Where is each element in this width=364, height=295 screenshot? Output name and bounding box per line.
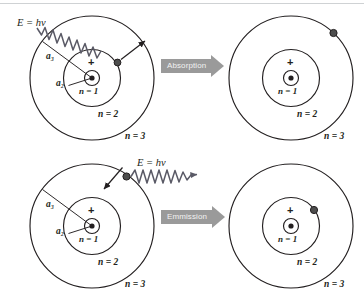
- process-arrow-head-icon: [211, 55, 224, 77]
- nucleus-charge-label: +: [88, 205, 94, 216]
- figure-canvas: E = hv a₃ a₂ + n = 1 n = 2 n = 3 + n = 1…: [0, 0, 364, 295]
- radius-a3-label: a₃: [46, 52, 54, 62]
- nucleus-charge-label: +: [287, 57, 293, 68]
- shell-n3-label: n = 3: [324, 280, 344, 290]
- process-arrow-absorption: Absorption: [161, 55, 224, 77]
- atom-emission-after: [229, 164, 353, 288]
- nucleus-dot: [288, 223, 293, 228]
- photon-energy-label: E = hv: [17, 18, 46, 29]
- shell-n3-label: n = 3: [125, 132, 145, 142]
- nucleus-dot: [288, 75, 293, 80]
- process-arrow-body: Absorption: [161, 59, 211, 73]
- radius-a2-label: a₂: [56, 227, 64, 237]
- bohr-diagram-svg: [0, 0, 364, 295]
- radius-a2-label: a₂: [56, 79, 64, 89]
- process-arrow-head-icon: [212, 206, 225, 228]
- atom-absorption-after: [229, 16, 353, 140]
- shell-n1-label: n = 1: [278, 235, 297, 244]
- shell-n1-label: n = 1: [278, 87, 297, 96]
- process-arrow-label: Emmission: [167, 213, 207, 221]
- radius-a3-label: a₃: [46, 200, 54, 210]
- shell-n3-label: n = 3: [324, 132, 344, 142]
- atom-absorption-before: [30, 16, 154, 140]
- process-arrow-label: Absorption: [167, 62, 206, 70]
- shell-n2-label: n = 2: [98, 110, 118, 120]
- electron-particle: [310, 206, 317, 213]
- shell-n1-label: n = 1: [79, 235, 98, 244]
- electron-particle: [330, 29, 337, 36]
- electron-jump-arrow: [121, 41, 145, 60]
- shell-n3-label: n = 3: [125, 280, 145, 290]
- nucleus-charge-label: +: [88, 57, 94, 68]
- photon-energy-label: E = hv: [137, 158, 166, 169]
- process-arrow-body: Emmission: [161, 210, 212, 224]
- electron-drop-arrow: [104, 168, 123, 190]
- shell-n2-label: n = 2: [297, 110, 317, 120]
- shell-n2-label: n = 2: [98, 258, 118, 268]
- shell-n1-label: n = 1: [79, 87, 98, 96]
- shell-n2-label: n = 2: [297, 258, 317, 268]
- process-arrow-emission: Emmission: [161, 206, 225, 228]
- photon-wave: [131, 170, 197, 183]
- electron-particle: [123, 173, 130, 180]
- electron-particle: [114, 59, 121, 66]
- nucleus-charge-label: +: [287, 205, 293, 216]
